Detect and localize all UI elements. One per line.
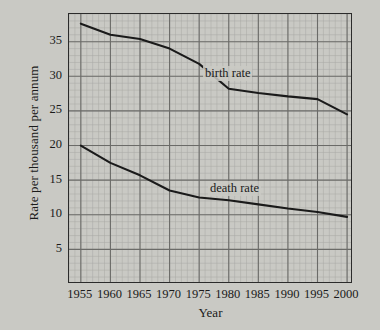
chart-figure: Rate per thousand per annum Year 5101520… [0, 0, 380, 330]
birth-rate-label: birth rate [203, 66, 252, 81]
plot-svg [69, 14, 352, 283]
y-tick-label: 30 [36, 69, 62, 82]
y-tick-label: 25 [36, 103, 62, 116]
y-tick-label: 20 [36, 138, 62, 151]
y-tick-label: 5 [36, 242, 62, 255]
y-tick-label: 15 [36, 173, 62, 186]
death-rate-label: death rate [208, 181, 261, 196]
x-axis-title: Year [68, 305, 353, 321]
plot-area [68, 13, 352, 283]
y-tick-label: 35 [36, 34, 62, 47]
x-tick-label: 2000 [326, 288, 366, 301]
grid-minor [69, 14, 352, 283]
y-tick-label: 10 [36, 207, 62, 220]
